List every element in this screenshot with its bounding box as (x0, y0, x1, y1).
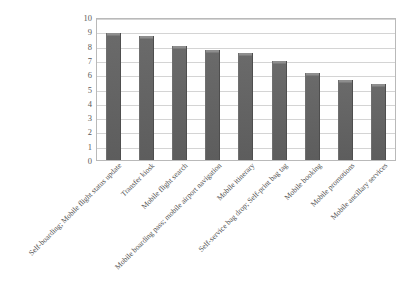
bar-chart: 109876543210 Self-boarding; Mobile fligh… (0, 0, 416, 303)
bar-slot (263, 19, 296, 160)
bar-slot (196, 19, 229, 160)
y-axis-tick-label: 1 (88, 142, 92, 152)
bar (305, 73, 320, 160)
y-axis: 109876543210 (70, 18, 92, 161)
bar (238, 53, 253, 160)
y-axis-tick-label: 10 (84, 13, 93, 23)
bar-slot (362, 19, 395, 160)
y-axis-tick-label: 2 (88, 127, 92, 137)
bar-slot (229, 19, 262, 160)
x-axis-tick-label: Mobile ancillary services (329, 161, 390, 222)
bar-slot (296, 19, 329, 160)
y-axis-tick-label: 9 (88, 27, 92, 37)
bar (106, 33, 121, 160)
bar-slot (329, 19, 362, 160)
bar (205, 50, 220, 160)
y-axis-tick-label: 8 (88, 42, 92, 52)
y-axis-tick-label: 6 (88, 70, 92, 80)
y-axis-tick-label: 3 (88, 113, 92, 123)
bar (371, 84, 386, 160)
y-axis-tick-label: 5 (88, 85, 92, 95)
bar-slot (163, 19, 196, 160)
bar (172, 46, 187, 160)
bar-slot (130, 19, 163, 160)
y-axis-tick-label: 0 (88, 156, 92, 166)
x-axis-tick-label: Self-boarding; Mobile flight status upda… (27, 161, 123, 257)
bar (272, 61, 287, 160)
bar (338, 80, 353, 160)
bar (139, 36, 154, 160)
bar-slot (97, 19, 130, 160)
plot-area (96, 18, 396, 161)
bar-series (97, 19, 395, 160)
y-axis-tick-label: 7 (88, 56, 92, 66)
y-axis-tick-label: 4 (88, 99, 92, 109)
x-axis: Self-boarding; Mobile flight status upda… (96, 161, 396, 301)
